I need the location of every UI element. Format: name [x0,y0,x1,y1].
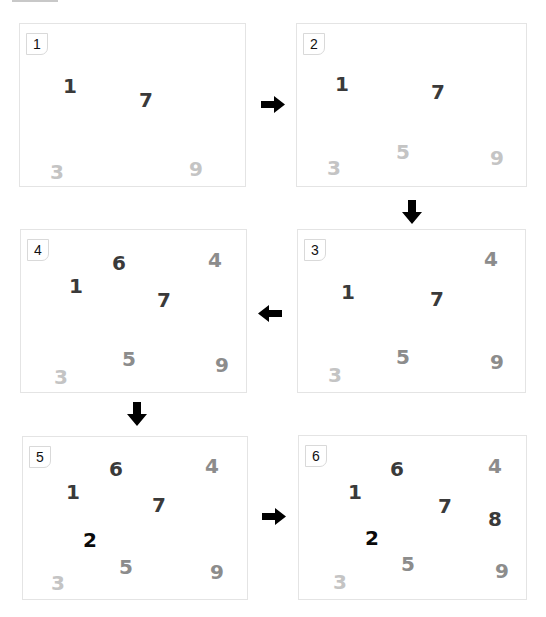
digit-5: 5 [396,347,410,367]
digit-6: 6 [109,459,123,479]
digit-3: 3 [328,365,342,385]
panel-number-badge: 6 [305,445,327,467]
digit-4: 4 [488,456,502,476]
digit-2: 2 [365,528,379,548]
digit-1: 1 [348,482,362,502]
panel-number-badge: 1 [26,33,48,55]
digit-5: 5 [122,349,136,369]
panel-5: 564172539 [22,436,248,600]
digit-9: 9 [189,159,203,179]
digit-9: 9 [490,148,504,168]
digit-9: 9 [210,562,224,582]
digit-1: 1 [341,282,355,302]
panel-number-badge: 5 [29,446,51,468]
digit-9: 9 [490,352,504,372]
digit-5: 5 [396,142,410,162]
panel-2: 217539 [296,23,527,187]
arrow-down-icon [402,200,422,224]
panel-3: 3417539 [297,229,526,393]
digit-7: 7 [139,90,153,110]
digit-7: 7 [152,495,166,515]
digit-7: 7 [157,290,171,310]
digit-3: 3 [51,573,65,593]
digit-8: 8 [488,509,502,529]
digit-9: 9 [215,355,229,375]
arrow-right-icon [261,96,285,113]
arrow-left-icon [258,305,282,322]
digit-3: 3 [54,367,68,387]
panel-number-badge: 3 [304,239,326,261]
digit-7: 7 [430,289,444,309]
panel-1: 11739 [19,23,246,187]
digit-4: 4 [484,249,498,269]
top-bar-decoration [12,0,58,2]
panel-number-badge: 2 [303,33,325,55]
digit-6: 6 [112,253,126,273]
panel-number-badge: 4 [27,239,49,261]
panel-4: 46417539 [20,229,247,393]
digit-1: 1 [335,74,349,94]
arrow-right-icon [262,508,286,525]
panel-6: 6641782539 [298,435,527,600]
digit-4: 4 [205,456,219,476]
digit-7: 7 [438,496,452,516]
digit-3: 3 [333,572,347,592]
digit-1: 1 [66,482,80,502]
digit-9: 9 [495,561,509,581]
arrow-down-icon [127,402,147,426]
digit-2: 2 [83,530,97,550]
digit-6: 6 [390,459,404,479]
digit-1: 1 [63,76,77,96]
digit-5: 5 [119,557,133,577]
digit-7: 7 [431,82,445,102]
digit-5: 5 [401,554,415,574]
digit-3: 3 [50,162,64,182]
digit-3: 3 [327,158,341,178]
digit-4: 4 [208,250,222,270]
digit-1: 1 [69,276,83,296]
